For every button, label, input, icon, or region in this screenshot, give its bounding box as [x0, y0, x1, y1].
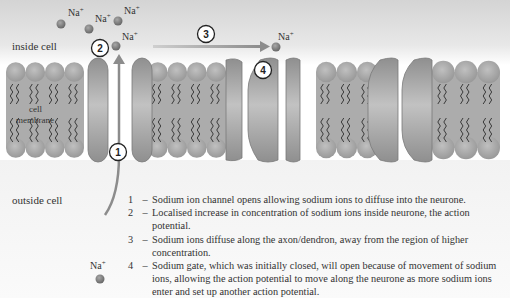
phospholipid-head-bottom — [6, 138, 26, 158]
channel-protein — [368, 58, 398, 162]
phospholipid-head-top — [26, 62, 46, 82]
phospholipid-head-bottom — [26, 138, 46, 158]
phospholipid-head-top — [337, 62, 358, 83]
phospholipid-head-bottom — [432, 137, 455, 160]
legend-item-3: 3–Sodium ions diffuse along the axon/den… — [128, 233, 508, 259]
channel-protein — [132, 58, 152, 162]
phospholipid-head-top — [6, 62, 26, 82]
membrane-label-line1: cell — [29, 104, 42, 114]
phospholipid-head-bottom — [455, 137, 478, 160]
legend-item-2: 2–Localised increase in concentration of… — [128, 206, 508, 232]
phospholipid-head-top — [477, 61, 500, 84]
sodium-ion — [112, 42, 121, 51]
phospholipid-head-bottom — [477, 137, 500, 160]
phospholipid-head-top — [207, 62, 227, 82]
channel-protein — [402, 58, 432, 162]
channel-protein — [286, 58, 300, 162]
sodium-ion — [272, 43, 281, 52]
diagram-stage: Na+Na+Na+Na+Na+Na+ 1234 inside cell outs… — [0, 0, 510, 298]
sodium-ion — [114, 17, 123, 26]
sodium-ion — [96, 275, 105, 284]
channel-protein — [88, 58, 108, 162]
membrane-label-line2: membrane — [16, 115, 54, 125]
legend: 1–Sodium ion channel opens allowing sodi… — [128, 193, 508, 298]
phospholipid-head-top — [432, 61, 455, 84]
arrow-diffusion — [153, 45, 261, 48]
inside-cell-label: inside cell — [12, 40, 57, 52]
step-marker-label: 3 — [203, 29, 209, 40]
phospholipid-head-top — [168, 62, 188, 82]
step-marker-label: 4 — [260, 65, 266, 76]
phospholipid-head-bottom — [337, 138, 358, 159]
phospholipid-head-bottom — [187, 138, 207, 158]
sodium-ion — [57, 20, 66, 29]
phospholipid-head-top — [455, 61, 478, 84]
phospholipid-head-bottom — [65, 138, 85, 158]
phospholipid-head-bottom — [168, 138, 188, 158]
legend-item-1: 1–Sodium ion channel opens allowing sodi… — [128, 193, 508, 206]
phospholipid-head-top — [316, 62, 337, 83]
phospholipid-head-top — [187, 62, 207, 82]
phospholipid-head-bottom — [207, 138, 227, 158]
phospholipid-head-bottom — [316, 138, 337, 159]
legend-item-4: 4–Sodium gate, which was initially close… — [128, 259, 508, 298]
outside-cell-label: outside cell — [12, 194, 62, 206]
sodium-ion — [85, 25, 94, 34]
step-marker-label: 1 — [115, 147, 121, 158]
phospholipid-head-top — [45, 62, 65, 82]
channel-protein — [226, 59, 242, 161]
step-marker-label: 2 — [97, 43, 103, 54]
phospholipid-head-top — [65, 62, 85, 82]
phospholipid-head-bottom — [45, 138, 65, 158]
